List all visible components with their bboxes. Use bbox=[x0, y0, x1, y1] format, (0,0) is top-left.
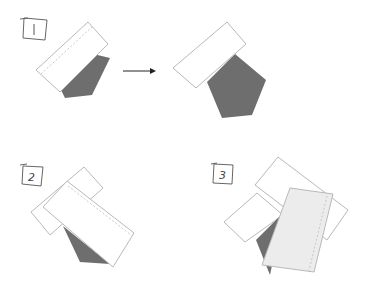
step-2-number: 2 bbox=[28, 171, 35, 184]
folding-diagram: 1 2 3 bbox=[0, 0, 381, 291]
step-1-figure bbox=[36, 22, 110, 98]
step-2-label: 2 bbox=[20, 164, 43, 186]
step-3-figure bbox=[224, 157, 348, 275]
arrow-icon bbox=[123, 68, 156, 74]
step-3-number: 3 bbox=[219, 169, 226, 182]
step-2-figure bbox=[31, 167, 134, 267]
step-3-label: 3 bbox=[211, 163, 233, 184]
step-1-result-figure bbox=[173, 22, 266, 118]
step-1-label: 1 bbox=[20, 0, 207, 40]
